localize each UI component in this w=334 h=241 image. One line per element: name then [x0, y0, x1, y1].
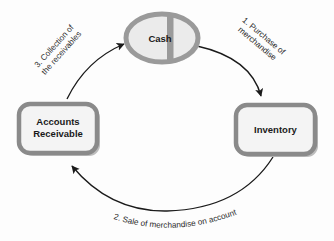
label-collection-of-receivables: 3. Collection of the receivables: [32, 23, 83, 77]
accounts-receivable-label-line1: Accounts: [36, 116, 79, 127]
node-inventory: Inventory: [236, 105, 318, 157]
arrow-accounts-receivable-to-cash: [67, 44, 124, 99]
arrow-path-collection: [67, 44, 124, 99]
cash-label: Cash: [148, 33, 171, 44]
arrow-path-purchase: [197, 46, 261, 96]
operating-cycle-diagram: Accounts Receivable Inventory Cash 1. Pu…: [0, 0, 334, 241]
cycle-diagram-canvas: Accounts Receivable Inventory Cash 1. Pu…: [0, 0, 334, 241]
arrow-path-sale: [72, 157, 273, 211]
label-purchase-of-merchandise: 1. Purchase of merchandise: [234, 16, 287, 65]
arrow-cash-to-inventory: [197, 46, 261, 96]
node-accounts-receivable: Accounts Receivable: [19, 104, 100, 156]
arrow-inventory-to-accounts-receivable: [72, 157, 273, 211]
inventory-label: Inventory: [254, 124, 297, 135]
node-cash: Cash: [126, 14, 200, 64]
accounts-receivable-label-line2: Receivable: [33, 128, 83, 139]
